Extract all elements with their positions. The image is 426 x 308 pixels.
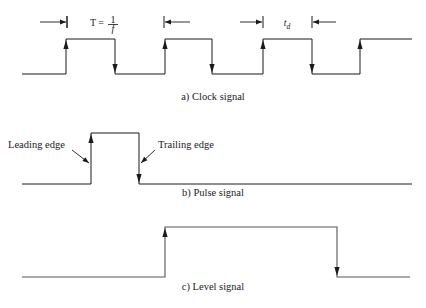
edge-arrowhead-clock-0 [63, 40, 68, 49]
waveform-panels [22, 39, 412, 277]
dimension-period-T: T =1f [67, 14, 190, 35]
dim-label-lead: T = [90, 17, 104, 28]
waveform-trace-level [22, 227, 410, 277]
annotation-label-leading-edge: Leading edge [8, 139, 65, 150]
waveform-level [22, 227, 410, 277]
leader-arrowhead-leading-edge [82, 157, 89, 163]
dim-arrow-head [60, 20, 66, 25]
edge-arrowhead-clock-1 [112, 64, 117, 73]
waveform-trace-pulse [22, 133, 412, 184]
dimension-marks: T =1ftd [40, 14, 336, 35]
annotation-label-trailing-edge: Trailing edge [158, 139, 214, 150]
caption-clock: a) Clock signal [181, 91, 245, 103]
dim-arrow-right-head [165, 20, 171, 25]
annotation-leading-edge: Leading edge [8, 139, 89, 163]
annotation-trailing-edge: Trailing edge [141, 139, 214, 163]
dim-label-subscript: d [287, 22, 291, 31]
dimension-pre-period-mark [40, 16, 67, 28]
edge-arrowhead-clock-3 [209, 64, 214, 73]
dim-arrow-right-head [313, 20, 319, 25]
dim-arrow-left-head [256, 20, 262, 25]
edge-arrowhead-level-1 [334, 267, 339, 276]
dim-label-td: td [284, 17, 291, 31]
panel-captions: a) Clock signalb) Pulse signalc) Level s… [181, 91, 245, 293]
edge-arrowhead-clock-6 [357, 40, 362, 49]
caption-level: c) Level signal [182, 281, 244, 293]
edge-arrowhead-clock-5 [309, 64, 314, 73]
edge-arrowhead-clock-4 [260, 40, 265, 49]
edge-arrowhead-pulse-0 [88, 134, 93, 143]
waveform-trace-clock [22, 39, 412, 74]
edge-arrowhead-level-0 [162, 228, 167, 237]
panel-annotations: Leading edgeTrailing edge [8, 139, 214, 163]
waveform-pulse [22, 133, 412, 184]
waveform-clock [22, 39, 412, 74]
edge-arrowhead-pulse-1 [136, 174, 141, 183]
caption-pulse: b) Pulse signal [182, 187, 244, 199]
dimension-pulse-width-td: td [240, 16, 336, 31]
edge-arrowhead-clock-2 [162, 40, 167, 49]
signal-waveform-figure: a) Clock signalb) Pulse signalc) Level s… [0, 0, 426, 308]
